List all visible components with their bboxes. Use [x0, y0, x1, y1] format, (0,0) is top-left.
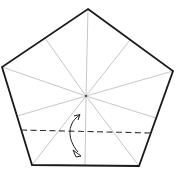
- center-point: [85, 95, 87, 97]
- origami-diagram: [0, 0, 176, 172]
- valley-fold-line: [21, 130, 152, 133]
- fold-arrow-icon: [70, 115, 81, 158]
- pentagon-diagram: [0, 0, 176, 172]
